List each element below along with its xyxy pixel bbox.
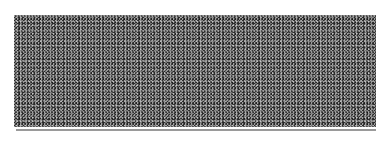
horizontal-divider [16,129,376,131]
noise-texture-panel [14,15,376,127]
